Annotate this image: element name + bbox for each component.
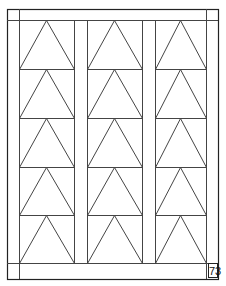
- triangle-patch: [156, 216, 207, 264]
- triangle-patch: [20, 168, 75, 216]
- triangle-patch: [20, 216, 75, 264]
- quilt-diagram: [0, 0, 226, 286]
- triangle-patch: [156, 70, 207, 119]
- triangle-patch: [88, 70, 143, 119]
- triangle-patch: [20, 70, 75, 119]
- page-number-badge: 73: [208, 263, 218, 278]
- outer-border: [8, 10, 219, 280]
- triangle-patch: [156, 21, 207, 70]
- triangle-patch: [88, 119, 143, 168]
- triangle-patch: [88, 168, 143, 216]
- triangle-patch: [20, 21, 75, 70]
- triangle-patch: [88, 21, 143, 70]
- triangle-patch: [156, 168, 207, 216]
- triangle-patch: [156, 119, 207, 168]
- triangle-patch: [20, 119, 75, 168]
- triangle-patch: [88, 216, 143, 264]
